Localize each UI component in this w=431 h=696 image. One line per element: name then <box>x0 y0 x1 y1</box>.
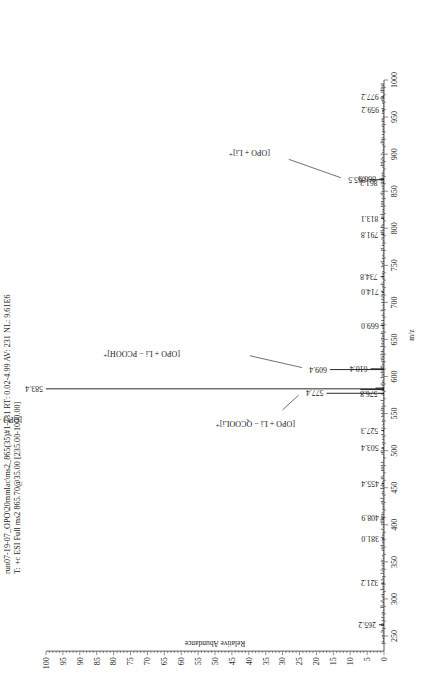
x-tick-label: 500 <box>390 445 399 457</box>
y-tick-label: 15 <box>329 657 338 665</box>
y-tick-label: 85 <box>93 657 102 665</box>
y-tick-label: 80 <box>109 657 118 665</box>
y-axis: 0510152025303540455055606570758085909510… <box>42 651 389 669</box>
peak-label: 714.0 <box>361 287 379 296</box>
peak-label: 455.4 <box>361 479 379 488</box>
y-tick-label: 60 <box>177 657 186 665</box>
peak-label: 609.4 <box>309 365 327 374</box>
x-tick-label: 850 <box>390 185 399 197</box>
y-tick-label: 70 <box>143 657 152 665</box>
peak-label: 977.2 <box>361 92 379 101</box>
x-tick-label: 900 <box>390 148 399 160</box>
x-tick-label: 350 <box>390 556 399 568</box>
y-tick-label: 0 <box>380 657 389 661</box>
peak-label: 408.9 <box>361 513 379 522</box>
peak-label: 813.1 <box>361 214 379 223</box>
peak-label: 321.2 <box>361 578 379 587</box>
y-tick-label: 100 <box>42 657 51 669</box>
peak-label: 381.0 <box>361 534 379 543</box>
peak-annotation: [OPO + Li − PCOOH]⁺ <box>103 349 180 358</box>
y-tick-label: 55 <box>194 657 203 665</box>
peak-label: 527.3 <box>361 426 379 435</box>
peak-label: 503.4 <box>361 443 379 452</box>
spectrum-peaks: 265.2321.2381.0408.9455.4503.4527.3576.8… <box>25 84 384 643</box>
peak-label: 265.2 <box>358 620 376 629</box>
y-tick-label: 20 <box>312 657 321 665</box>
y-tick-label: 65 <box>160 657 169 665</box>
y-tick-label: 50 <box>211 657 220 665</box>
annotation-leader-line <box>250 356 302 368</box>
y-tick-label: 5 <box>363 657 372 661</box>
x-tick-label: 600 <box>390 371 399 383</box>
x-axis-title: m/z <box>407 329 416 341</box>
y-tick-label: 30 <box>278 657 287 665</box>
mass-spectrum-chart: run07-19-07_OPO\20mmlac\ms2_865(35)#1-23… <box>0 0 431 696</box>
peak-label: 577.4 <box>306 388 324 397</box>
x-tick-label: 700 <box>390 296 399 308</box>
y-tick-label: 90 <box>76 657 85 665</box>
y-axis-title: Relative Abundance <box>184 639 245 648</box>
x-tick-label: 550 <box>390 408 399 420</box>
y-tick-label: 45 <box>228 657 237 665</box>
peak-annotation: [OPO + Li − QCOOH]⁺ <box>0 415 22 424</box>
peak-label: 959.2 <box>361 105 379 114</box>
chart-header: run07-19-07_OPO\20mmlac\ms2_865(35)#1-23… <box>3 294 22 574</box>
y-tick-label: 40 <box>245 657 254 665</box>
peak-label: 669.0 <box>361 321 379 330</box>
x-tick-label: 950 <box>390 111 399 123</box>
y-tick-label: 25 <box>295 657 304 665</box>
x-tick-label: 450 <box>390 482 399 494</box>
y-tick-label: 95 <box>59 657 68 665</box>
peak-label: 583.4 <box>25 384 43 393</box>
y-tick-label: 10 <box>346 657 355 665</box>
x-axis: 2503003504004505005506006507007508008509… <box>384 72 399 651</box>
peak-label: 610.4 <box>350 364 368 373</box>
x-tick-label: 800 <box>390 222 399 234</box>
x-tick-label: 300 <box>390 593 399 605</box>
peak-label: 791.8 <box>361 230 379 239</box>
peak-label: 866.3 <box>358 174 376 183</box>
x-tick-label: 250 <box>390 630 399 642</box>
peak-annotation: [OPO + Li − QCOOLi]⁺ <box>216 419 295 428</box>
rotated-chart-stage: run07-19-07_OPO\20mmlac\ms2_865(35)#1-23… <box>0 0 431 696</box>
peak-annotations: [OPO + Li − QCOOH]⁺[OPO + Li − QCOOLi]⁺[… <box>0 148 341 428</box>
y-tick-label: 35 <box>262 657 271 665</box>
x-tick-label: 750 <box>390 259 399 271</box>
annotation-leader-line <box>283 395 299 410</box>
x-tick-label: 650 <box>390 333 399 345</box>
y-tick-label: 75 <box>126 657 135 665</box>
header-line-1: run07-19-07_OPO\20mmlac\ms2_865(35)#1-23… <box>3 294 12 574</box>
annotation-leader-line <box>289 159 341 177</box>
peak-label: 734.8 <box>360 272 378 281</box>
x-tick-label: 400 <box>390 519 399 531</box>
header-line-2: T: +c ESI Full ms2 865.70@35.00 [235.00-… <box>13 401 22 574</box>
peak-annotation: [OPO + Li]⁺ <box>229 148 270 157</box>
x-tick-label: 1000 <box>390 72 399 88</box>
